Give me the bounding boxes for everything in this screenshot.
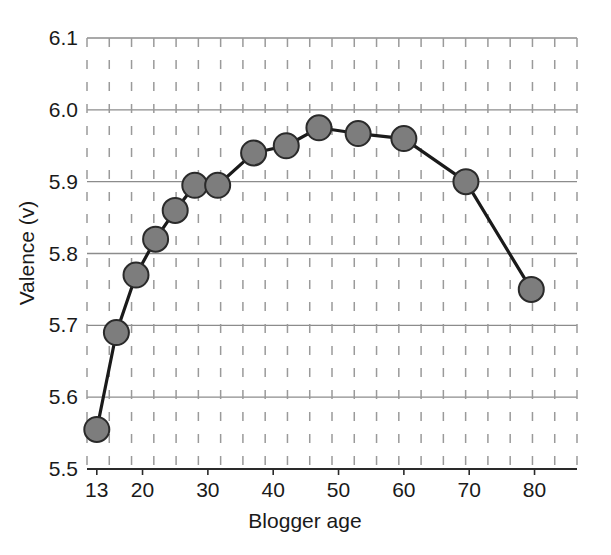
data-point-marker (182, 173, 207, 198)
data-point-marker (163, 198, 188, 223)
data-point-marker (143, 227, 168, 252)
x-axis-tick-labels: 1320304050607080 (85, 478, 546, 501)
y-axis-tick-label: 5.6 (49, 385, 78, 408)
data-point-marker (274, 133, 299, 158)
y-axis-title: Valence (v) (15, 201, 38, 306)
y-axis-tick-label: 5.7 (49, 313, 78, 336)
data-point-marker (104, 320, 129, 345)
x-axis-tick-label: 50 (327, 478, 350, 501)
valence-by-blogger-age-line-chart: 5.55.65.75.85.96.06.1 1320304050607080 B… (0, 0, 611, 555)
data-point-marker (124, 263, 149, 288)
data-point-marker (205, 173, 230, 198)
y-axis-tick-label: 5.9 (49, 170, 78, 193)
data-point-marker (306, 115, 331, 140)
x-axis-tick-label: 70 (458, 478, 481, 501)
data-point-marker (391, 126, 416, 151)
y-axis-tick-label: 6.1 (49, 26, 78, 49)
x-axis-title: Blogger age (248, 509, 361, 532)
x-axis-tick-label: 40 (262, 478, 285, 501)
data-point-marker (519, 277, 544, 302)
data-point-marker (453, 169, 478, 194)
chart-container: 5.55.65.75.85.96.06.1 1320304050607080 B… (0, 0, 611, 555)
x-axis-tick-label: 13 (85, 478, 108, 501)
y-axis-tick-label: 6.0 (49, 98, 78, 121)
x-axis-tick-label: 30 (196, 478, 219, 501)
x-axis-tick-label: 60 (392, 478, 415, 501)
horizontal-gridlines (87, 38, 577, 469)
y-axis-tick-label: 5.5 (49, 457, 78, 480)
x-axis-tick-label: 20 (131, 478, 154, 501)
data-point-marker (346, 121, 371, 146)
y-axis-tick-labels: 5.55.65.75.85.96.06.1 (49, 26, 78, 480)
x-axis-tick-label: 80 (523, 478, 546, 501)
y-axis-tick-label: 5.8 (49, 242, 78, 265)
data-point-marker (84, 417, 109, 442)
data-point-marker (241, 140, 266, 165)
